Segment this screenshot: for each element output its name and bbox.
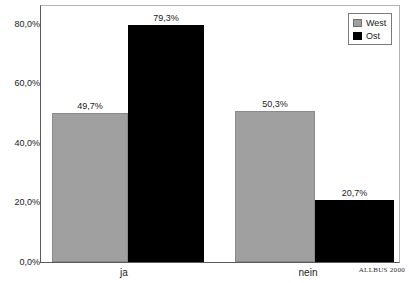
bar-value-ja-west: 49,7% xyxy=(52,101,128,111)
y-tick-label: 0,0% xyxy=(4,257,40,267)
bar-value-nein-west: 50,3% xyxy=(235,99,315,109)
x-tick-label-ja: ja xyxy=(92,267,156,279)
bar-value-ja-ost: 79,3% xyxy=(128,13,204,23)
bar-ja-west[interactable] xyxy=(52,113,128,262)
legend: West Ost xyxy=(348,13,392,45)
bar-ja-ost[interactable] xyxy=(128,25,204,262)
y-tick-label: 40,0% xyxy=(4,138,40,148)
legend-label-west: West xyxy=(366,18,386,28)
legend-label-ost: Ost xyxy=(366,31,380,41)
legend-item-west[interactable]: West xyxy=(353,17,386,28)
y-tick-label: 20,0% xyxy=(4,197,40,207)
bars-layer: 49,7% 79,3% 50,3% 20,7% xyxy=(41,6,399,262)
legend-item-ost[interactable]: Ost xyxy=(353,30,386,41)
bar-nein-ost[interactable] xyxy=(315,200,394,262)
source-note: ALLBUS 2000 xyxy=(359,266,405,274)
x-tick-label-nein: nein xyxy=(276,267,340,279)
legend-swatch-west-icon xyxy=(353,19,362,27)
legend-swatch-ost-icon xyxy=(353,32,362,40)
bar-nein-west[interactable] xyxy=(235,111,315,262)
bar-chart: 0,0% 20,0% 40,0% 60,0% 80,0% 49,7% 79,3%… xyxy=(0,0,409,283)
y-axis: 0,0% 20,0% 40,0% 60,0% 80,0% xyxy=(0,0,40,283)
bar-value-nein-ost: 20,7% xyxy=(315,188,394,198)
y-tick-label: 60,0% xyxy=(4,78,40,88)
y-tick-label: 80,0% xyxy=(4,19,40,29)
